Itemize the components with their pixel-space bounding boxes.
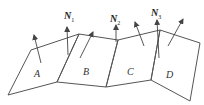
panel-a <box>8 34 79 95</box>
panel-b-label: B <box>83 67 89 77</box>
n1-label: N1 <box>64 11 74 23</box>
n1-arrow <box>67 27 68 55</box>
panel-b-normal-arrow <box>80 32 93 58</box>
panel-c-label: C <box>127 67 134 77</box>
panel-c <box>106 30 160 87</box>
panel-d-normal-arrow <box>168 19 183 46</box>
n3-label: N3 <box>151 8 161 20</box>
panel-d-label: D <box>166 70 173 80</box>
panel-a-label: A <box>34 69 40 79</box>
n2-label: N2 <box>110 14 120 26</box>
panel-normals-diagram <box>0 0 204 105</box>
panel-b <box>57 34 118 87</box>
